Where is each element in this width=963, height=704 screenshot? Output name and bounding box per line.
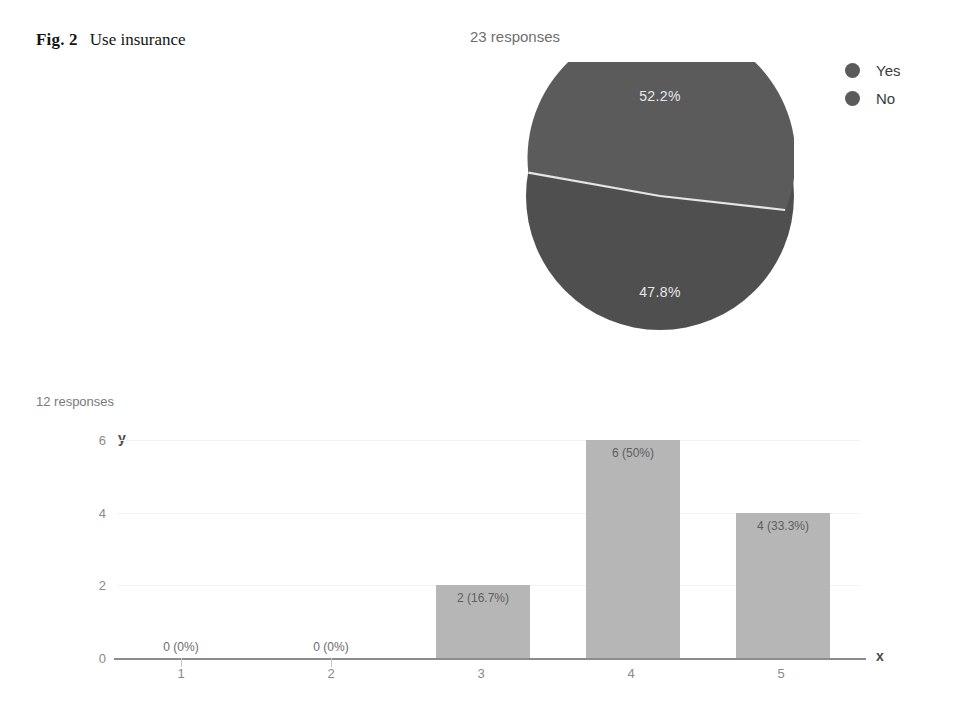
figure-caption: Fig. 2Use insurance [36,30,186,50]
bar-label-1: 0 (0%) [163,640,198,654]
pie-label-no: 47.8% [615,284,705,300]
legend-label-yes: Yes [876,62,900,79]
pie-label-yes: 52.2% [615,88,705,104]
bar-5[interactable] [736,513,830,658]
legend-label-no: No [876,90,895,107]
legend-item-no[interactable]: No [845,84,900,112]
bar-label-3: 2 (16.7%) [457,591,509,605]
bar-plot-area: 0 (0%) 0 (0%) 2 (16.7%) 6 (50%) 4 (33.3%… [118,440,860,658]
pie-responses-label: 23 responses [470,28,560,45]
legend-swatch-icon [845,63,860,78]
bar-chart-block: 12 responses y x 6 4 2 0 0 (0%) 0 (0%) 2… [0,380,963,690]
bar-label-2: 0 (0%) [313,640,348,654]
x-axis-line [114,658,866,660]
bar-label-4: 6 (50%) [612,446,654,460]
bar-4[interactable] [586,440,680,658]
y-tick-4: 4 [99,505,106,520]
x-tick-5: 5 [777,666,784,681]
y-tick-2: 2 [99,578,106,593]
x-axis-title: x [876,648,884,664]
x-tick-2: 2 [327,666,334,681]
x-tick-4: 4 [627,666,634,681]
x-tick-1: 1 [177,666,184,681]
legend-item-yes[interactable]: Yes [845,56,900,84]
pie-chart: 52.2% 47.8% [526,62,794,330]
pie-chart-block: 23 responses 52.2% 47.8% Yes No [460,18,960,348]
y-tick-6: 6 [99,433,106,448]
pie-legend: Yes No [845,56,900,112]
bar-label-5: 4 (33.3%) [757,519,809,533]
x-tick-3: 3 [477,666,484,681]
bar-responses-label: 12 responses [36,394,114,409]
figure-number: Fig. 2 [36,30,78,49]
y-tick-0: 0 [99,651,106,666]
figure-title: Use insurance [90,30,186,49]
y-axis-ticks: 6 4 2 0 [82,440,106,658]
gridline-6 [118,440,860,441]
legend-swatch-icon [845,91,860,106]
